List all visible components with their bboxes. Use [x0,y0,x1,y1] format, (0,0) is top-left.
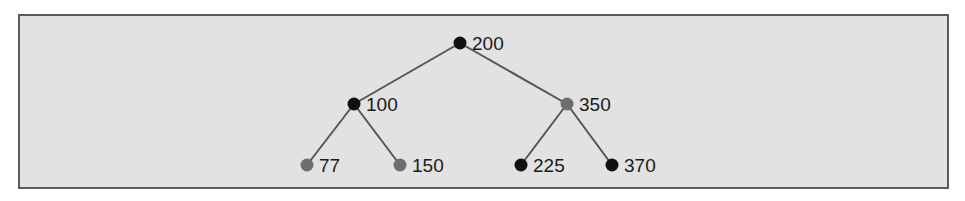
node-label: 200 [472,33,504,54]
node-label: 77 [319,155,340,176]
tree-node-200: 200 [454,33,504,54]
tree-node-77: 77 [301,155,341,176]
node-label: 370 [624,155,656,176]
diagram-canvas: 20010035077150225370 [0,0,965,201]
node-label: 150 [412,155,444,176]
tree-diagram: 20010035077150225370 [0,0,965,201]
tree-node-150: 150 [394,155,444,176]
tree-node-370: 370 [606,155,656,176]
node-dot-icon [606,159,619,172]
tree-node-100: 100 [348,94,398,115]
node-label: 350 [579,94,611,115]
node-dot-icon [515,159,528,172]
node-dot-icon [394,159,407,172]
node-label: 225 [533,155,565,176]
node-dot-icon [301,159,314,172]
tree-node-225: 225 [515,155,565,176]
node-label: 100 [366,94,398,115]
node-dot-icon [561,98,574,111]
tree-node-350: 350 [561,94,611,115]
node-dot-icon [348,98,361,111]
node-dot-icon [454,37,467,50]
